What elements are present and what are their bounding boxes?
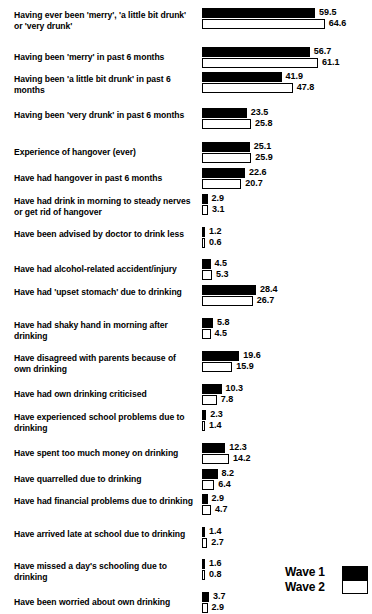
- row-label: Have spent too much money on drinking: [14, 448, 194, 459]
- bar-value-label: 41.9: [286, 71, 304, 82]
- bar-value-label: 7.8: [221, 394, 234, 405]
- bar-rect: [202, 410, 206, 420]
- row-label: Have had shaky hand in morning after dri…: [14, 320, 194, 342]
- bar-value-label: 26.7: [257, 295, 275, 306]
- bar-rect: [202, 296, 253, 306]
- bar-value-label: 6.4: [218, 479, 231, 490]
- row-label: Have been worried about own drinking: [14, 597, 194, 608]
- bar-rect: [202, 179, 241, 189]
- bar-rect: [202, 119, 251, 129]
- legend-label: Wave 1: [285, 565, 325, 580]
- bar-value-label: 2.9: [212, 193, 225, 204]
- bar-value-label: 2.3: [210, 409, 223, 420]
- bar-rect: [202, 592, 209, 602]
- bar-value-label: 23.5: [251, 107, 269, 118]
- row-label: Have had alcohol-related accident/injury: [14, 264, 194, 275]
- row-label: Have been advised by doctor to drink les…: [14, 229, 194, 240]
- bar-value-label: 5.3: [216, 269, 229, 280]
- row-label: Have arrived late at school due to drink…: [14, 529, 194, 540]
- bar-value-label: 0.8: [209, 569, 222, 580]
- bar-rect: [202, 58, 318, 68]
- bar-rect: [202, 142, 250, 152]
- bar-rect: [202, 384, 222, 394]
- bar-value-label: 10.3: [226, 383, 244, 394]
- bar-value-label: 28.4: [260, 284, 278, 295]
- row-label: Have had hangover in past 6 months: [14, 173, 194, 184]
- chart-legend: Wave 1Wave 2: [285, 565, 369, 605]
- bar-rect: [202, 47, 310, 57]
- bar-value-label: 59.5: [319, 7, 337, 18]
- bar-rect: [202, 395, 217, 405]
- bar-value-label: 4.5: [215, 258, 228, 269]
- bar-value-label: 47.8: [297, 82, 315, 93]
- bar-rect: [202, 559, 205, 569]
- bar-value-label: 25.8: [255, 118, 273, 129]
- bar-rect: [202, 238, 205, 248]
- bar-rect: [202, 19, 325, 29]
- bar-value-label: 4.7: [215, 504, 228, 515]
- row-label: Having been 'merry' in past 6 months: [14, 52, 194, 63]
- bar-rect: [202, 480, 214, 490]
- bar-rect: [202, 205, 208, 215]
- row-label: Having been 'a little bit drunk' in past…: [14, 74, 194, 96]
- row-label: Have experienced school problems due to …: [14, 412, 194, 434]
- bar-rect: [202, 168, 245, 178]
- bar-value-label: 1.4: [209, 526, 222, 537]
- bar-value-label: 61.1: [322, 57, 340, 68]
- bar-rect: [202, 259, 211, 269]
- bar-value-label: 64.6: [329, 18, 347, 29]
- row-label: Have disagreed with parents because of o…: [14, 353, 194, 375]
- bar-rect: [202, 72, 282, 82]
- row-label: Have quarrelled due to drinking: [14, 474, 194, 485]
- bar-value-label: 56.7: [314, 46, 332, 57]
- bar-rect: [202, 505, 211, 515]
- bar-value-label: 3.1: [212, 204, 225, 215]
- bar-rect: [202, 454, 229, 464]
- row-label: Have had drink in morning to steady nerv…: [14, 196, 194, 218]
- bar-rect: [202, 494, 208, 504]
- legend-swatch-wave-1: [342, 566, 368, 580]
- bar-value-label: 5.8: [217, 317, 230, 328]
- bar-value-label: 8.2: [222, 468, 235, 479]
- bar-value-label: 15.9: [236, 361, 254, 372]
- bar-value-label: 22.6: [249, 167, 267, 178]
- bar-value-label: 20.7: [245, 178, 263, 189]
- bar-rect: [202, 8, 315, 18]
- bar-rect: [202, 443, 225, 453]
- row-label: Have had 'upset stomach' due to drinking: [14, 287, 194, 298]
- legend-swatch-wave-2: [342, 580, 368, 594]
- bar-rect: [202, 538, 207, 548]
- bar-rect: [202, 83, 293, 93]
- bar-value-label: 1.4: [209, 420, 222, 431]
- bar-value-label: 0.6: [209, 237, 222, 248]
- row-label: Have had financial problems due to drink…: [14, 496, 194, 507]
- bar-rect: [202, 329, 211, 339]
- bar-value-label: 2.9: [212, 493, 225, 504]
- row-label: Having been 'very drunk' in past 6 month…: [14, 110, 194, 121]
- bar-value-label: 1.2: [209, 226, 222, 237]
- bar-rect: [202, 108, 247, 118]
- bar-rect: [202, 421, 205, 431]
- bar-rect: [202, 603, 208, 613]
- bar-rect: [202, 570, 205, 580]
- bar-rect: [202, 194, 208, 204]
- bar-value-label: 25.9: [255, 152, 273, 163]
- bar-value-label: 4.5: [215, 328, 228, 339]
- bar-chart: Having ever been 'merry', 'a little bit …: [0, 0, 372, 614]
- bar-rect: [202, 318, 213, 328]
- bar-rect: [202, 362, 232, 372]
- bar-value-label: 2.9: [212, 602, 225, 613]
- bar-value-label: 1.6: [209, 558, 222, 569]
- bar-value-label: 19.6: [243, 350, 261, 361]
- legend-swatches: [342, 566, 368, 594]
- bar-rect: [202, 285, 256, 295]
- legend-label: Wave 2: [285, 580, 325, 595]
- bar-rect: [202, 527, 205, 537]
- bar-value-label: 12.3: [229, 442, 247, 453]
- bar-value-label: 25.1: [254, 141, 272, 152]
- bar-rect: [202, 469, 218, 479]
- row-label: Experience of hangover (ever): [14, 147, 194, 158]
- bar-value-label: 3.7: [213, 591, 226, 602]
- bar-value-label: 2.7: [211, 537, 224, 548]
- bar-rect: [202, 351, 239, 361]
